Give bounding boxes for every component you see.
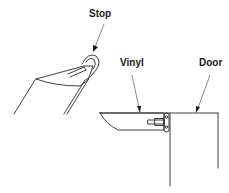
bumper-dot-top bbox=[165, 116, 167, 118]
panel-edge-right-2 bbox=[67, 80, 88, 114]
vinyl-arrowhead-icon bbox=[137, 106, 141, 113]
vinyl-leader-line bbox=[132, 75, 139, 108]
vinyl-wedge bbox=[100, 113, 164, 130]
angled-wedge bbox=[36, 66, 93, 86]
installed-view bbox=[100, 75, 218, 186]
angled-stop-view bbox=[14, 24, 104, 114]
vinyl-label: Vinyl bbox=[120, 58, 144, 68]
stop-arrowhead-icon bbox=[93, 45, 98, 52]
diagram-canvas bbox=[0, 0, 229, 193]
bumper-dot-bottom bbox=[165, 126, 167, 128]
stop-label: Stop bbox=[89, 9, 111, 19]
door-leader-line bbox=[198, 75, 210, 108]
panel-edge-left bbox=[14, 80, 35, 114]
stop-bumper-inner bbox=[86, 58, 95, 69]
stop-leader-line bbox=[95, 24, 104, 47]
screw-icon bbox=[148, 120, 164, 124]
screw-icon bbox=[68, 67, 86, 77]
door-arrowhead-icon bbox=[196, 106, 200, 113]
door-label: Door bbox=[199, 58, 222, 68]
